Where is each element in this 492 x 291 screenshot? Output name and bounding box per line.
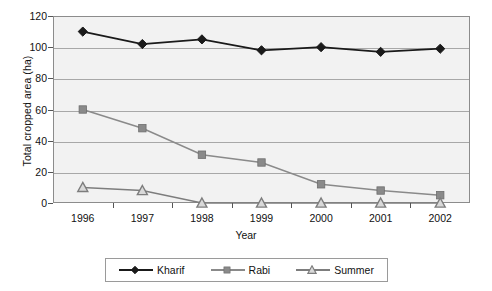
gridline [54, 48, 469, 49]
x-axis-tick-mark [291, 203, 292, 208]
legend-swatch-icon [119, 264, 153, 276]
legend-marker-square-icon [222, 265, 232, 275]
x-axis-title: Year [0, 229, 492, 241]
y-axis-tick-label: 100 [21, 42, 47, 52]
gridline [54, 79, 469, 80]
y-axis-tick-label: 120 [21, 11, 47, 21]
gridline [54, 111, 469, 112]
y-axis-tick-mark [48, 203, 53, 204]
legend-marker-triangle-icon [307, 265, 317, 275]
line-chart: Total cropped area (ha) 020406080100120 … [0, 0, 492, 291]
legend-swatch-icon [296, 264, 330, 276]
gridline [54, 173, 469, 174]
x-axis-tick-label: 1997 [112, 212, 172, 224]
x-axis-tick-mark [410, 203, 411, 208]
legend-marker-diamond-icon [130, 265, 140, 275]
x-axis-tick-mark [172, 203, 173, 208]
y-axis-tick-label: 60 [21, 105, 47, 115]
y-axis-tick-label: 0 [21, 198, 47, 208]
x-axis-tick-mark [113, 203, 114, 208]
x-axis-tick-label: 1996 [53, 212, 113, 224]
y-axis-tick-mark [48, 141, 53, 142]
plot-area [53, 16, 470, 203]
x-axis-tick-mark [232, 203, 233, 208]
legend-entry-kharif[interactable]: Kharif [119, 264, 184, 276]
gridline [54, 142, 469, 143]
y-axis-tick-mark [48, 47, 53, 48]
y-axis-tick-label: 80 [21, 73, 47, 83]
x-axis-tick-label: 2000 [291, 212, 351, 224]
y-axis-tick-mark [48, 16, 53, 17]
y-axis-tick-label: 40 [21, 136, 47, 146]
legend-label: Rabi [249, 264, 271, 276]
x-axis-tick-label: 2001 [351, 212, 411, 224]
x-axis-tick-mark [351, 203, 352, 208]
legend-swatch-icon [211, 264, 245, 276]
y-axis-tick-mark [48, 110, 53, 111]
legend-label: Kharif [157, 264, 184, 276]
chart-legend: KharifRabiSummer [105, 258, 388, 282]
y-axis-tick-label: 20 [21, 167, 47, 177]
y-axis-tick-labels: 020406080100120 [19, 0, 47, 291]
legend-entry-rabi[interactable]: Rabi [211, 264, 271, 276]
y-axis-tick-mark [48, 172, 53, 173]
legend-label: Summer [334, 264, 374, 276]
y-axis-tick-mark [48, 78, 53, 79]
x-axis-tick-label: 1998 [172, 212, 232, 224]
x-axis-tick-label: 1999 [232, 212, 292, 224]
legend-entry-summer[interactable]: Summer [296, 264, 374, 276]
x-axis-tick-label: 2002 [410, 212, 470, 224]
